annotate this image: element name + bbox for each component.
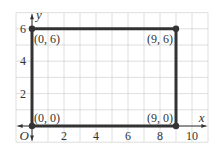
vertex-label: (0, 0)	[34, 111, 60, 125]
x-tick-label: 4	[93, 129, 99, 143]
y-tick-label: 4	[20, 54, 26, 68]
y-axis-arrow-down-icon	[30, 136, 34, 141]
vertex-label: (9, 0)	[147, 111, 173, 125]
vertex-label: (9, 6)	[147, 32, 173, 46]
vertex-dot	[173, 123, 179, 129]
x-axis-label: x	[198, 110, 205, 125]
vertex-label: (0, 6)	[34, 32, 60, 46]
x-tick-label: 10	[186, 129, 198, 143]
x-tick-label: 6	[125, 129, 131, 143]
origin-label: O	[20, 128, 30, 143]
coordinate-plane: (0, 6)(9, 6)(0, 0)(9, 0) 246810246Oxy	[0, 0, 216, 153]
vertex-dot	[173, 26, 179, 32]
y-tick-label: 2	[20, 87, 26, 101]
y-axis-arrow-icon	[30, 14, 34, 19]
y-tick-label: 6	[20, 22, 26, 36]
x-tick-label: 2	[61, 129, 67, 143]
y-axis-label: y	[34, 7, 42, 22]
x-tick-label: 8	[157, 129, 163, 143]
